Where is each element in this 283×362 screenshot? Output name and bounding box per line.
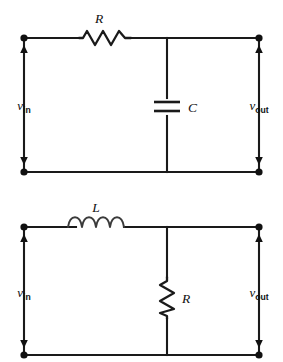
circuit-diagram-canvas: R C vin vout <box>0 0 283 362</box>
arrowhead-vout-up-rc <box>255 45 263 53</box>
resistor-label-lr: R <box>181 291 191 306</box>
node-dot-bottom-right-lr <box>255 351 262 358</box>
output-port-subscript-lr: out <box>255 292 268 302</box>
node-dot-top-left-rc <box>20 34 27 41</box>
circuit-figure: R C vin vout <box>0 0 283 362</box>
output-port-subscript-rc: out <box>255 105 268 115</box>
arrowhead-vout-down-lr <box>255 340 263 348</box>
node-dot-top-right-lr <box>255 223 262 230</box>
circuit-lr-low-pass: L R vin vout <box>17 200 268 359</box>
node-dot-bottom-right-rc <box>255 168 262 175</box>
arrowhead-vin-down-lr <box>20 340 28 348</box>
arrowhead-vin-up-lr <box>20 234 28 242</box>
circuit-rc-low-pass: R C vin vout <box>17 11 268 176</box>
capacitor-label-rc: C <box>188 100 198 115</box>
inductor-label-lr: L <box>91 200 100 215</box>
resistor-zigzag-icon <box>79 31 131 45</box>
node-dot-top-left-lr <box>20 223 27 230</box>
arrowhead-vin-up-rc <box>20 45 28 53</box>
arrowhead-vout-down-rc <box>255 157 263 165</box>
inductor-coil-icon <box>68 217 124 227</box>
arrowhead-vout-up-lr <box>255 234 263 242</box>
node-dot-bottom-left-rc <box>20 168 27 175</box>
node-dot-bottom-left-lr <box>20 351 27 358</box>
input-port-subscript-rc: in <box>23 105 31 115</box>
input-port-subscript-lr: in <box>23 292 31 302</box>
arrowhead-vin-down-rc <box>20 157 28 165</box>
resistor-label-rc: R <box>94 11 104 26</box>
resistor-zigzag-icon <box>160 277 174 319</box>
node-dot-top-right-rc <box>255 34 262 41</box>
